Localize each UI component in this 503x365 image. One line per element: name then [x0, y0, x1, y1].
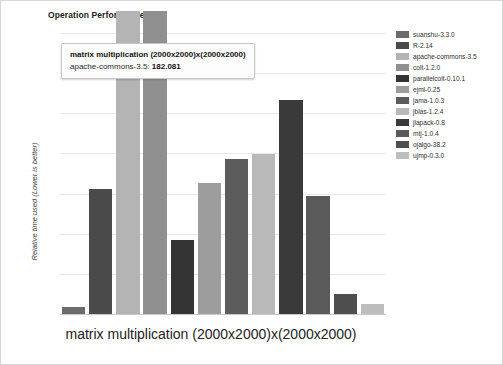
- x-axis-line: [60, 314, 386, 315]
- legend-item[interactable]: apache-commons-3.5: [396, 52, 477, 61]
- legend-item[interactable]: jblas-1.2.4: [396, 107, 477, 116]
- legend-label: colt-1.2.0: [413, 63, 440, 72]
- bar[interactable]: [198, 183, 221, 314]
- legend-item[interactable]: suanshu-3.3.0: [396, 30, 477, 39]
- legend-swatch-icon: [396, 86, 409, 93]
- tooltip-title: matrix multiplication (2000x2000)x(2000x…: [70, 49, 246, 61]
- bar[interactable]: [252, 154, 275, 314]
- legend-swatch-icon: [396, 64, 409, 71]
- chart-tooltip: matrix multiplication (2000x2000)x(2000x…: [61, 43, 255, 79]
- bar[interactable]: [171, 240, 194, 314]
- legend-swatch-icon: [396, 42, 409, 49]
- legend-label: ujmp-0.3.0: [413, 151, 444, 160]
- legend-swatch-icon: [396, 141, 409, 148]
- legend-label: jlapack-0.8: [413, 118, 445, 127]
- legend-swatch-icon: [396, 108, 409, 115]
- legend: suanshu-3.3.0R-2.14apache-commons-3.5col…: [396, 30, 477, 160]
- legend-item[interactable]: colt-1.2.0: [396, 63, 477, 72]
- legend-swatch-icon: [396, 119, 409, 126]
- bar-slot: [305, 33, 332, 314]
- tooltip-value-row: apache-commons-3.5: 182.081: [70, 61, 246, 73]
- legend-swatch-icon: [396, 53, 409, 60]
- legend-label: ejml-0.25: [413, 85, 440, 94]
- legend-label: ojalgo-38.2: [413, 140, 446, 149]
- bar[interactable]: [62, 307, 85, 314]
- bar-slot: [332, 33, 359, 314]
- legend-label: apache-commons-3.5: [413, 52, 477, 61]
- bar-slot: [277, 33, 304, 314]
- legend-swatch-icon: [396, 97, 409, 104]
- legend-swatch-icon: [396, 75, 409, 82]
- legend-item[interactable]: jlapack-0.8: [396, 118, 477, 127]
- bar[interactable]: [89, 189, 112, 314]
- x-axis-label: matrix multiplication (2000x2000)x(2000x…: [31, 326, 391, 342]
- chart-frame: Operation Performance Relative time used…: [0, 0, 503, 365]
- legend-swatch-icon: [396, 31, 409, 38]
- legend-swatch-icon: [396, 130, 409, 137]
- legend-item[interactable]: mtj-1.0.4: [396, 129, 477, 138]
- legend-swatch-icon: [396, 152, 409, 159]
- tooltip-value: 182.081: [152, 62, 181, 71]
- legend-label: parallelcolt-0.10.1: [413, 74, 465, 83]
- tooltip-series-label: apache-commons-3.5:: [70, 62, 150, 71]
- bar[interactable]: [306, 196, 329, 314]
- bar[interactable]: [279, 100, 302, 314]
- legend-item[interactable]: parallelcolt-0.10.1: [396, 74, 477, 83]
- legend-label: R-2.14: [413, 41, 433, 50]
- bar[interactable]: [361, 304, 384, 314]
- legend-item[interactable]: ojalgo-38.2: [396, 140, 477, 149]
- legend-label: jama-1.0.3: [413, 96, 444, 105]
- legend-item[interactable]: ujmp-0.3.0: [396, 151, 477, 160]
- legend-label: suanshu-3.3.0: [413, 30, 455, 39]
- legend-label: jblas-1.2.4: [413, 107, 443, 116]
- y-axis-label: Relative time used (Lower is better): [30, 107, 39, 297]
- legend-item[interactable]: ejml-0.25: [396, 85, 477, 94]
- legend-item[interactable]: R-2.14: [396, 41, 477, 50]
- legend-item[interactable]: jama-1.0.3: [396, 96, 477, 105]
- bar-slot: [359, 33, 386, 314]
- bar[interactable]: [334, 294, 357, 314]
- legend-label: mtj-1.0.4: [413, 129, 439, 138]
- bar[interactable]: [225, 159, 248, 314]
